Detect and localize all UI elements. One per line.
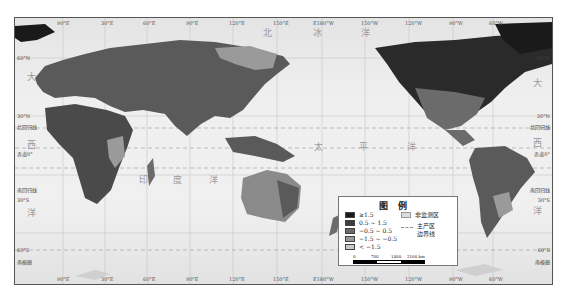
lon-tick-bottom: 30°E (101, 276, 114, 282)
lat-label-left: 60°S (17, 247, 29, 253)
legend-swatch-non-monitored (401, 212, 411, 218)
ocean-label-atlantic-right: 洋 (533, 204, 542, 217)
scale-bar: 0 700 1400 2100 km (353, 254, 425, 264)
central-america (445, 130, 475, 146)
ocean-label-atlantic-left: 西 (27, 138, 36, 151)
legend-row: −1.5 ~ −0.5 (345, 235, 397, 242)
ocean-label-atlantic-left: 大 (27, 70, 36, 83)
legend-label-boundary: 边界线 (417, 229, 435, 238)
lon-tick-bottom: 90°W (449, 276, 463, 282)
lon-tick-bottom: 120°W (405, 276, 422, 282)
lon-tick-top: 120°E (229, 20, 245, 26)
legend-label-non-monitored: 非监测区 (415, 210, 439, 219)
indonesia (225, 136, 295, 162)
lat-label-right: 30°N (537, 113, 550, 119)
lon-tick-bottom: 60°E (143, 276, 156, 282)
lat-label-left: 南回归线 (17, 186, 37, 193)
legend-row: −0.5 ~ 0.5 (345, 227, 392, 234)
scale-label: 700 (371, 254, 379, 259)
legend-swatch (345, 244, 355, 250)
scale-bar-graphic (353, 260, 425, 264)
ocean-label-arctic: 冰 (313, 26, 322, 39)
antarctica-fragment (455, 264, 503, 276)
lon-tick-bottom: 150°E (273, 276, 289, 282)
legend-label: < −1.5 (359, 243, 381, 250)
lon-tick-top: 150°E (273, 20, 289, 26)
legend-swatch (345, 212, 355, 218)
lon-tick-bottom: E180°W (313, 276, 334, 282)
legend-swatch (345, 228, 355, 234)
legend-swatch (345, 220, 355, 226)
ocean-label-arctic: 洋 (361, 26, 370, 39)
legend-row: < −1.5 (345, 243, 381, 250)
boundary-line-sample (401, 227, 413, 228)
ocean-label-atlantic-left: 洋 (27, 206, 36, 219)
ocean-label-indian: 度 (173, 173, 182, 186)
lat-label-right: 30°S (538, 197, 550, 203)
lat-label-left: 南极圈 (17, 258, 32, 265)
lat-label-left: 赤道0° (17, 150, 33, 157)
lon-tick-bottom: 90°E (186, 276, 199, 282)
lat-label-right: 60°N (537, 55, 550, 61)
lon-tick-bottom: 120°E (229, 276, 245, 282)
scale-label: 1400 (391, 254, 401, 259)
lon-tick-bottom: 150°W (361, 276, 378, 282)
legend-label: −1.5 ~ −0.5 (359, 235, 397, 242)
lat-label-left: 30°N (17, 113, 30, 119)
lat-label-left: 60°N (17, 55, 30, 61)
lon-tick-top: 90°E (186, 20, 199, 26)
legend-label: 0.5 ~ 1.5 (359, 219, 387, 226)
lat-label-right: 南极圈 (535, 258, 550, 265)
legend-label: ≥1.5 (359, 211, 374, 218)
lon-tick-bottom: 90°E (57, 276, 70, 282)
ocean-label-atlantic-right: 西 (533, 136, 542, 149)
lat-label-right: 60°S (538, 247, 550, 253)
lon-tick-top: 60°E (143, 20, 156, 26)
greenland-west (15, 24, 55, 42)
legend-label: −0.5 ~ 0.5 (359, 227, 392, 234)
lat-label-right: 南回归线 (530, 186, 550, 193)
lon-tick-top: 30°E (101, 20, 114, 26)
lat-label-left: 北回归线 (17, 123, 37, 130)
lat-label-right: 北回归线 (530, 123, 550, 130)
ocean-label-indian: 洋 (209, 173, 218, 186)
map-legend: 图例 ≥1.5 0.5 ~ 1.5 −0.5 ~ 0.5 −1.5 ~ −0.5… (338, 196, 458, 266)
ocean-label-atlantic-right: 大 (533, 76, 542, 89)
map-frame: 90°E 30°E 60°E 90°E 120°E 150°E E180°W 1… (14, 17, 553, 285)
world-map-svg (15, 18, 552, 284)
legend-row: 0.5 ~ 1.5 (345, 219, 387, 226)
ocean-label-indian: 印 (139, 173, 148, 186)
lon-tick-top: 90°E (57, 20, 70, 26)
lon-tick-bottom: 60°W (489, 276, 503, 282)
lon-tick-top: 90°W (449, 20, 463, 26)
lat-label-right: 赤道0° (534, 150, 550, 157)
ocean-label-pacific: 太 (314, 140, 323, 153)
legend-row: ≥1.5 (345, 211, 374, 218)
south-america (469, 146, 535, 238)
scale-label: 0 (353, 254, 356, 259)
ocean-label-pacific: 平 (359, 140, 368, 153)
legend-swatch (345, 236, 355, 242)
madagascar (147, 158, 155, 186)
ocean-label-arctic: 北 (263, 26, 272, 39)
ocean-label-pacific: 洋 (407, 140, 416, 153)
legend-row-non-monitored: 非监测区 (401, 211, 439, 218)
scale-label: 2100 km (407, 254, 425, 259)
lat-label-left: 30°S (17, 197, 29, 203)
lon-tick-top: 120°W (405, 20, 422, 26)
lon-tick-top: 60°W (489, 20, 503, 26)
